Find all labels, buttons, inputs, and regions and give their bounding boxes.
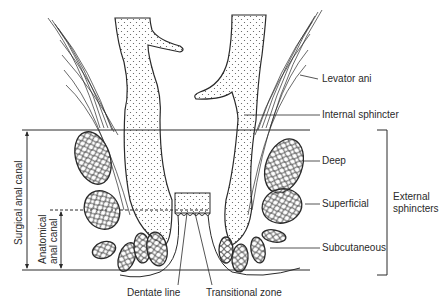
- label-subcutaneous: Subcutaneous: [322, 242, 386, 254]
- label-surgical-anal-canal: Surgical anal canal: [13, 161, 24, 246]
- label-transitional-zone: Transitional zone: [206, 287, 282, 299]
- label-external-sphincters-1: External: [393, 191, 430, 203]
- label-anatomical-anal-canal-2: anal canal: [48, 218, 59, 264]
- label-dentate-line: Dentate line: [127, 287, 180, 299]
- label-internal-sphincter: Internal sphincter: [322, 109, 399, 121]
- levator-ani-left: [48, 18, 130, 215]
- label-superficial: Superficial: [322, 198, 369, 210]
- label-levator-ani: Levator ani: [322, 73, 371, 85]
- leader-dentate-line: [178, 213, 187, 285]
- label-deep: Deep: [322, 155, 346, 167]
- dentate-line-edge: [175, 213, 210, 216]
- leader-levator-ani: [300, 75, 318, 79]
- label-external-sphincters-2: sphincters: [393, 203, 439, 215]
- anal-canal-diagram: [0, 0, 448, 306]
- rectal-wall-left: [115, 18, 183, 245]
- label-anatomical-anal-canal-1: Anatomical: [37, 215, 48, 264]
